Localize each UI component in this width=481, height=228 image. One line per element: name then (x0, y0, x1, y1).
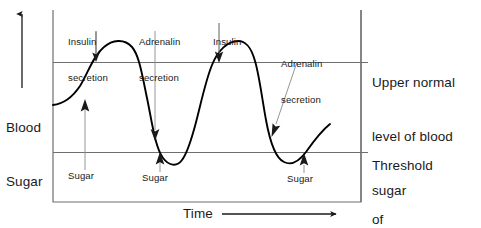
arrowhead-adrenalin-1 (151, 129, 160, 141)
annotation-adrenalin-secretion-2-line-1: Adrenalin (281, 58, 322, 70)
hypoglycaemia-threshold-note-line-2: of (372, 211, 480, 228)
x-axis-title: Time (183, 206, 213, 222)
annotation-sugar-1: Sugar (68, 170, 94, 181)
annotation-insulin-2: Insulin (213, 13, 241, 72)
hypoglycaemia-threshold-note-line-1: Threshold (372, 157, 480, 175)
y-axis-title-line-3: Level (6, 227, 54, 228)
arrowhead-adrenalin-2 (272, 123, 281, 137)
annotation-insulin-secretion-1-line-1: Insulin (68, 36, 108, 48)
annotation-adrenalin-secretion-1-line-2: secretion (139, 72, 180, 84)
arrowhead-sugar-3 (300, 153, 309, 166)
annotation-adrenalin-secretion-1-line-1: Adrenalin (139, 36, 180, 48)
annotation-insulin-secretion-1-line-2: secretion (68, 72, 108, 84)
annotation-adrenalin-secretion-2: Adrenalin secretion (281, 35, 322, 129)
annotation-insulin-2-line-1: Insulin (213, 36, 241, 48)
hypoglycaemia-threshold-note: Threshold of Hypoglycaemia (372, 121, 480, 228)
y-axis-title-line-2: Sugar (6, 173, 54, 191)
upper-normal-level-note-line-1: Upper normal (372, 74, 480, 92)
annotation-sugar-3: Sugar (287, 173, 313, 184)
annotation-sugar-2: Sugar (142, 172, 168, 183)
annotation-adrenalin-secretion-2-line-2: secretion (281, 94, 322, 106)
y-axis-title: Blood Sugar Level (6, 83, 54, 228)
y-axis-title-line-1: Blood (6, 119, 54, 137)
annotation-adrenalin-secretion-1: Adrenalin secretion (139, 13, 180, 107)
annotation-insulin-secretion-1: Insulin secretion (68, 13, 108, 107)
blood-sugar-diagram: Blood Sugar Level Time Upper normal leve… (0, 0, 481, 228)
